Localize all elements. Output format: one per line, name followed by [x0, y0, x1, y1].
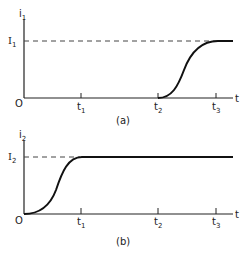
panel-a: i1 I1 O t1 t2 t3 t (a) [8, 8, 239, 126]
x-label-a: t [235, 93, 239, 104]
curve-i1 [158, 41, 233, 98]
x-label-b: t [235, 209, 239, 220]
t1-label-a: t1 [77, 101, 85, 115]
y-label-a: i1 [19, 8, 26, 22]
origin-label-b: O [15, 215, 23, 226]
current-waveform-diagram: i1 I1 O t1 t2 t3 t (a) i2 I2 O t1 t2 t3 … [0, 0, 251, 263]
t2-label-a: t2 [154, 101, 162, 115]
curve-i2 [24, 157, 233, 214]
level-label-a: I1 [8, 35, 16, 49]
t2-label-b: t2 [154, 216, 162, 230]
origin-label-a: O [15, 98, 23, 109]
caption-a: (a) [116, 115, 130, 126]
y-label-b: i2 [19, 129, 26, 143]
t1-label-b: t1 [77, 216, 85, 230]
level-label-b: I2 [8, 151, 16, 165]
caption-b: (b) [116, 236, 130, 247]
t3-label-b: t3 [212, 216, 220, 230]
t3-label-a: t3 [212, 101, 220, 115]
panel-b: i2 I2 O t1 t2 t3 t (b) [8, 129, 239, 247]
